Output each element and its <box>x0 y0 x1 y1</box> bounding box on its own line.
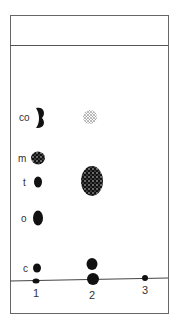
spot-label-m: m <box>18 153 26 164</box>
spot-label-t: t <box>23 177 26 188</box>
lane1-spot-o <box>33 211 43 226</box>
lane1-spot-origin <box>33 279 40 284</box>
lane-label-2: 2 <box>89 289 95 301</box>
lane2-spot-near-origin <box>87 258 98 270</box>
lane2-spot-t-level <box>81 166 103 196</box>
lane1-spot-co <box>36 108 44 128</box>
lane-label-1: 1 <box>33 287 39 299</box>
spot-label-co: co <box>19 112 30 123</box>
lane2-spot-co-level <box>83 110 97 124</box>
lane3-spot-origin <box>142 275 148 281</box>
spot-label-o: o <box>21 213 27 224</box>
lane1-spot-m <box>31 152 45 165</box>
spot-label-c: c <box>23 263 28 274</box>
lane1-spot-t <box>34 177 42 188</box>
lane1-spot-c <box>33 264 41 273</box>
tlc-plate-diagram: co m t o c 1 2 3 <box>0 0 178 328</box>
lane2-spot-origin <box>87 273 99 285</box>
lane-label-3: 3 <box>142 284 148 296</box>
